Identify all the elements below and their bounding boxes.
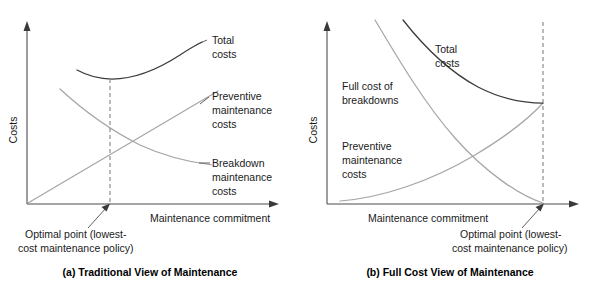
x-axis-arrowhead bbox=[269, 201, 279, 208]
panel-a-label-total-costs-line2: costs bbox=[212, 48, 237, 60]
panel-b-y-axis bbox=[324, 21, 331, 204]
panel-a-optimal-note-line1: Optimal point (lowest- bbox=[25, 228, 127, 240]
panel-b-label-total-costs-line1: Total bbox=[435, 43, 457, 55]
panel-b-optimal-note-line1: Optimal point (lowest- bbox=[460, 228, 562, 240]
panel-b-caption: (b) Full Cost View of Maintenance bbox=[366, 266, 533, 278]
x-axis-arrowhead bbox=[569, 201, 579, 208]
panel-a-label-preventive-line3: costs bbox=[212, 118, 237, 130]
y-axis-arrowhead bbox=[324, 21, 331, 31]
figure-root: Costs Maintenance commitment Total costs… bbox=[0, 0, 600, 286]
panel-a-leader-total-costs bbox=[196, 40, 207, 45]
panel-a-y-axis-label: Costs bbox=[7, 117, 19, 144]
panel-b-plot: Costs Maintenance commitment Total costs… bbox=[300, 0, 600, 286]
panel-b-label-preventive-line3: costs bbox=[342, 168, 367, 180]
panel-a-optimal-note-line2: cost maintenance policy) bbox=[18, 242, 134, 254]
panel-a-caption: (a) Traditional View of Maintenance bbox=[63, 266, 238, 278]
y-axis-arrowhead bbox=[24, 21, 31, 31]
panel-a-curve-preventive-maintenance bbox=[28, 91, 218, 203]
panel-a-x-axis bbox=[27, 201, 279, 208]
panel-b-optimal-point-arrow bbox=[522, 204, 544, 229]
panel-a-curve-total-costs bbox=[77, 42, 202, 79]
panel-b-y-axis-label: Costs bbox=[307, 117, 319, 144]
panel-a-label-total-costs-line1: Total bbox=[212, 34, 234, 46]
panel-a-curve-breakdown-maintenance bbox=[60, 89, 212, 165]
panel-b-x-axis-label: Maintenance commitment bbox=[368, 212, 488, 224]
panel-b-optimal-note-line2: cost maintenance policy) bbox=[452, 242, 568, 254]
panel-a-x-axis-label: Maintenance commitment bbox=[150, 212, 270, 224]
panel-a-label-breakdown-line3: costs bbox=[212, 185, 237, 197]
panel-full-cost-view: Costs Maintenance commitment Total costs… bbox=[300, 0, 600, 286]
panel-b-label-full-cost-line1: Full cost of bbox=[342, 80, 393, 92]
panel-a-optimal-point-arrow bbox=[88, 204, 110, 229]
panel-a-plot: Costs Maintenance commitment Total costs… bbox=[0, 0, 300, 286]
panel-b-label-preventive-line1: Preventive bbox=[342, 140, 392, 152]
panel-a-label-breakdown-line2: maintenance bbox=[212, 171, 272, 183]
panel-traditional-view: Costs Maintenance commitment Total costs… bbox=[0, 0, 300, 286]
panel-b-curve-preventive-maintenance bbox=[340, 103, 543, 201]
panel-b-curve-full-cost-of-breakdowns bbox=[375, 20, 543, 203]
panel-a-y-axis bbox=[24, 21, 31, 204]
panel-b-label-full-cost-line2: breakdowns bbox=[342, 94, 399, 106]
panel-b-label-total-costs-line2: costs bbox=[435, 57, 460, 69]
panel-b-label-preventive-line2: maintenance bbox=[342, 154, 402, 166]
panel-b-curve-total-costs bbox=[403, 20, 543, 103]
panel-a-label-preventive-line1: Preventive bbox=[212, 90, 262, 102]
panel-a-label-breakdown-line1: Breakdown bbox=[212, 157, 265, 169]
panel-a-label-preventive-line2: maintenance bbox=[212, 104, 272, 116]
